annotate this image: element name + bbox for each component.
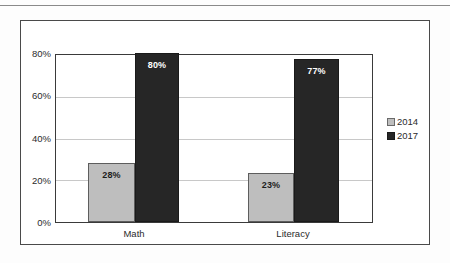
bar-literacy-2014[interactable]: 23% [248, 173, 294, 222]
bar-literacy-2017[interactable]: 77% [294, 59, 339, 222]
bar-value-label: 23% [249, 181, 293, 190]
x-category-label-math: Math [123, 229, 144, 239]
legend-item-2014[interactable]: 2014 [387, 116, 418, 128]
bar-value-label: 77% [295, 67, 338, 76]
legend-label: 2017 [397, 131, 418, 141]
bar-math-2014[interactable]: 28% [88, 163, 135, 222]
bar-math-2017[interactable]: 80% [135, 53, 179, 222]
y-tick-label-80: 80% [19, 49, 51, 59]
legend-label: 2014 [397, 117, 418, 127]
y-axis: 0% 20% 40% 60% 80% [21, 54, 51, 223]
chart-legend: 2014 2017 [387, 116, 418, 144]
chart-frame: 0% 20% 40% 60% 80% 28% 80% 23% 77% [20, 20, 430, 245]
y-tick-label-60: 60% [19, 92, 51, 102]
x-category-label-literacy: Literacy [276, 229, 309, 239]
chart-screenshot: 0% 20% 40% 60% 80% 28% 80% 23% 77% [0, 0, 450, 263]
horizontal-rule-divider [0, 5, 450, 6]
plot-area: 28% 80% 23% 77% [55, 54, 373, 223]
square-black-icon [387, 132, 395, 140]
bar-value-label: 80% [136, 61, 178, 70]
square-gray-icon [387, 118, 395, 126]
y-tick-label-0: 0% [19, 218, 51, 228]
y-tick-label-20: 20% [19, 176, 51, 186]
legend-item-2017[interactable]: 2017 [387, 130, 418, 142]
bar-value-label: 28% [89, 171, 134, 180]
y-tick-label-40: 40% [19, 134, 51, 144]
